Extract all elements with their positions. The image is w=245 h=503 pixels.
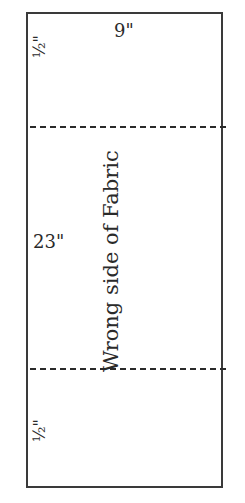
width-label: 9" [114,22,134,40]
bottom-fold-line [30,368,226,370]
height-label: 23" [33,233,64,251]
top-seam-label: ½" [32,35,48,58]
wrong-side-label: Wrong side of Fabric [99,150,123,372]
top-fold-line [30,126,226,128]
bottom-seam-label: ½" [32,419,48,442]
